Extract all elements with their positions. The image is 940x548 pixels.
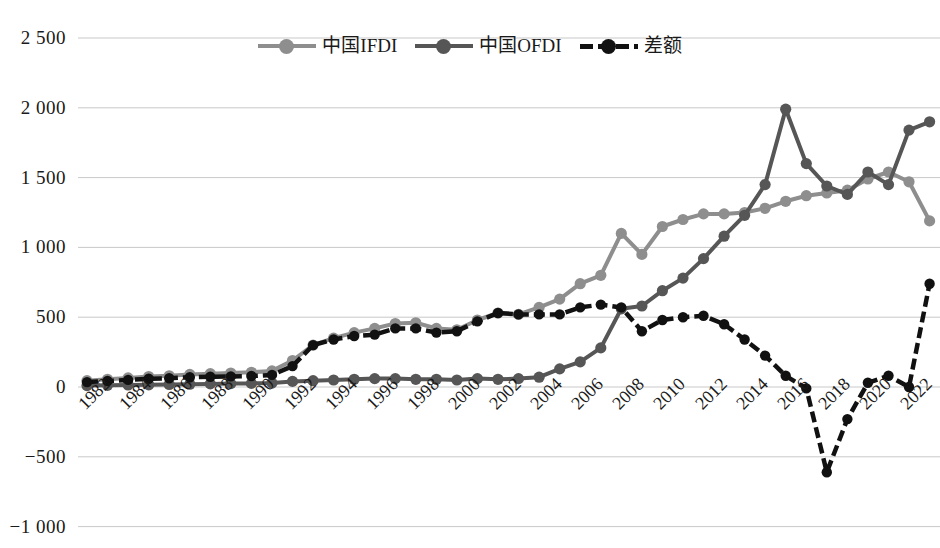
data-point-marker	[616, 228, 627, 239]
data-point-marker	[780, 104, 791, 115]
data-point-marker	[719, 231, 730, 242]
data-point-marker	[760, 203, 771, 214]
data-point-marker	[287, 361, 297, 371]
series-line	[87, 172, 930, 381]
legend-entry[interactable]: 中国IFDI	[258, 36, 397, 55]
legend-label: 中国OFDI	[479, 36, 561, 55]
data-point-marker	[801, 190, 812, 201]
data-point-marker	[616, 302, 626, 312]
data-point-marker	[739, 334, 749, 344]
data-point-marker	[698, 253, 709, 264]
data-point-marker	[493, 308, 503, 318]
data-point-marker	[370, 329, 380, 339]
y-axis-tick-label: 500	[0, 307, 66, 326]
data-point-marker	[698, 208, 709, 219]
data-point-marker	[657, 221, 668, 232]
legend-marker-icon	[580, 38, 638, 54]
legend-label: 中国IFDI	[322, 36, 397, 55]
data-point-marker	[719, 208, 730, 219]
data-point-marker	[842, 414, 852, 424]
data-point-marker	[472, 316, 482, 326]
legend-label: 差额	[644, 36, 682, 55]
data-point-marker	[411, 323, 421, 333]
data-point-marker	[698, 311, 708, 321]
data-point-marker	[903, 125, 914, 136]
y-axis-tick-label: 1 000	[0, 237, 66, 256]
data-point-marker	[883, 179, 894, 190]
data-point-marker	[677, 214, 688, 225]
data-point-marker	[555, 309, 565, 319]
data-point-marker	[924, 215, 935, 226]
legend-marker-icon	[258, 38, 316, 54]
data-point-marker	[842, 189, 853, 200]
data-point-marker	[246, 371, 256, 381]
data-point-marker	[801, 158, 812, 169]
data-point-marker	[636, 249, 647, 260]
data-point-marker	[595, 270, 606, 281]
data-point-marker	[678, 312, 688, 322]
y-axis-tick-label: −500	[0, 447, 66, 466]
data-point-marker	[575, 356, 586, 367]
data-point-marker	[554, 294, 565, 305]
data-point-marker	[739, 210, 750, 221]
data-point-marker	[903, 176, 914, 187]
data-point-marker	[657, 285, 668, 296]
line-chart: 2 5002 0001 5001 0005000−500−1 000 19821…	[0, 0, 940, 548]
data-point-marker	[575, 278, 586, 289]
series-layer	[81, 104, 935, 478]
chart-plot-area	[0, 0, 940, 548]
data-point-marker	[637, 326, 647, 336]
data-point-marker	[924, 116, 935, 127]
y-axis-tick-label: 2 000	[0, 98, 66, 117]
data-point-marker	[554, 363, 565, 374]
data-point-marker	[677, 273, 688, 284]
legend-dot	[279, 39, 294, 54]
chart-legend: 中国IFDI中国OFDI差额	[0, 36, 940, 55]
data-point-marker	[513, 309, 523, 319]
data-point-marker	[862, 166, 873, 177]
data-point-marker	[328, 334, 338, 344]
data-point-marker	[781, 371, 791, 381]
gridlines	[78, 38, 940, 527]
data-point-marker	[308, 340, 318, 350]
data-point-marker	[596, 299, 606, 309]
data-point-marker	[349, 331, 359, 341]
legend-entry[interactable]: 中国OFDI	[415, 36, 561, 55]
data-point-marker	[431, 327, 441, 337]
legend-marker-icon	[415, 38, 473, 54]
data-point-marker	[780, 196, 791, 207]
data-point-marker	[719, 319, 729, 329]
data-point-marker	[760, 350, 770, 360]
data-point-marker	[657, 315, 667, 325]
y-axis-tick-label: 0	[0, 377, 66, 396]
legend-dot	[436, 39, 451, 54]
data-point-marker	[924, 279, 934, 289]
data-point-marker	[822, 467, 832, 477]
y-axis-tick-label: −1 000	[0, 517, 66, 536]
legend-dot	[601, 39, 616, 54]
data-point-marker	[760, 179, 771, 190]
legend-entry[interactable]: 差额	[580, 36, 682, 55]
data-point-marker	[821, 180, 832, 191]
data-point-marker	[534, 309, 544, 319]
data-point-marker	[452, 326, 462, 336]
y-axis-tick-label: 1 500	[0, 168, 66, 187]
data-point-marker	[595, 342, 606, 353]
data-point-marker	[636, 300, 647, 311]
data-point-marker	[575, 302, 585, 312]
data-point-marker	[390, 323, 400, 333]
data-point-marker	[205, 372, 215, 382]
